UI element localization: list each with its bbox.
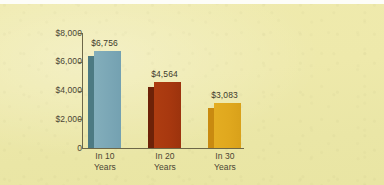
x-axis-label-1-line-1: In 10 bbox=[84, 151, 126, 162]
y-axis-tick-0: 0 bbox=[26, 144, 82, 153]
x-axis-label-2-line-1: In 20 bbox=[144, 151, 186, 162]
y-axis-tick-label-0: 0 bbox=[36, 144, 82, 153]
x-axis-label-in-20-years: In 20 Years bbox=[144, 151, 186, 173]
y-axis-tick-2000: $2,000 bbox=[26, 115, 82, 124]
bar-value-label-3: $3,083 bbox=[211, 90, 238, 100]
x-axis-label-3-line-1: In 30 bbox=[204, 151, 246, 162]
y-axis-tick-6000: $6,000 bbox=[26, 57, 82, 66]
y-axis-tick-label-4000: $4,000 bbox=[36, 86, 82, 95]
y-axis-tick-4000: $4,000 bbox=[26, 86, 82, 95]
y-axis-tick-label-8000: $8,000 bbox=[36, 29, 82, 38]
bar-value-label-1: $6,756 bbox=[91, 38, 118, 48]
bar-face-1 bbox=[94, 51, 121, 148]
bar-chart-plot-area: $8,000 $6,000 $4,000 $2,000 0 $6,756 $4,… bbox=[0, 0, 384, 185]
x-axis-label-3-line-2: Years bbox=[204, 162, 246, 173]
x-axis-label-in-30-years: In 30 Years bbox=[204, 151, 246, 173]
bar-in-10-years[interactable]: $6,756 bbox=[88, 51, 121, 148]
y-axis-tick-8000: $8,000 bbox=[26, 29, 82, 38]
x-axis-label-1-line-2: Years bbox=[84, 162, 126, 173]
bar-value-label-2: $4,564 bbox=[151, 69, 178, 79]
x-axis-label-in-10-years: In 10 Years bbox=[84, 151, 126, 173]
x-axis-line bbox=[82, 148, 244, 149]
bar-face-2 bbox=[154, 82, 181, 148]
y-axis-line bbox=[82, 33, 83, 148]
bar-face-3 bbox=[214, 103, 241, 148]
bar-in-20-years[interactable]: $4,564 bbox=[148, 82, 181, 148]
bar-in-30-years[interactable]: $3,083 bbox=[208, 103, 241, 148]
y-axis-tick-label-2000: $2,000 bbox=[36, 115, 82, 124]
y-axis-tick-label-6000: $6,000 bbox=[36, 57, 82, 66]
x-axis-label-2-line-2: Years bbox=[144, 162, 186, 173]
chart-screenshot: $8,000 $6,000 $4,000 $2,000 0 $6,756 $4,… bbox=[0, 0, 384, 185]
